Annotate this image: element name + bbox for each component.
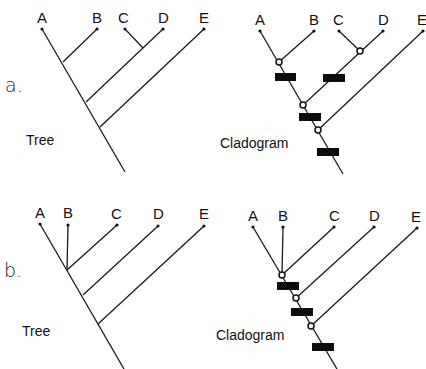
panel-label-a: a. xyxy=(5,74,23,96)
clade-node xyxy=(315,127,321,133)
synapomorphy-bar xyxy=(323,74,345,82)
clado-branch-d xyxy=(303,31,383,105)
taxon-label-e: E xyxy=(417,11,426,28)
taxon-label-a: A xyxy=(37,9,47,26)
tip-dot xyxy=(156,224,159,227)
tip-dot xyxy=(251,225,254,228)
cladogram-b: A B C D E Cladogram xyxy=(216,207,421,369)
synapomorphy-bar xyxy=(317,148,339,156)
tip-dot xyxy=(202,27,205,30)
cladogram-a: A B C D E Cladogram xyxy=(220,11,426,174)
clado-branch-e xyxy=(311,228,417,326)
taxon-label-d: D xyxy=(378,11,389,28)
tree-a: A B C D E Tree xyxy=(26,9,209,172)
clado-branch-b xyxy=(282,227,283,275)
tree-branch-b xyxy=(63,29,97,62)
tip-dot xyxy=(40,27,43,30)
taxon-label-c: C xyxy=(333,11,344,28)
cladogram-figure: a. A B C D E Tree xyxy=(0,0,426,369)
taxon-label-c: C xyxy=(329,207,340,224)
taxon-label-e: E xyxy=(199,9,209,26)
tree-branch-d xyxy=(83,226,158,295)
synapomorphy-bar xyxy=(299,113,321,121)
tree-caption: Tree xyxy=(22,323,50,339)
taxon-label-c: C xyxy=(118,9,129,26)
clade-node xyxy=(357,48,363,54)
tree-branch-d xyxy=(86,29,163,102)
tip-dot xyxy=(372,225,375,228)
synapomorphy-bar xyxy=(312,343,334,351)
tip-dot xyxy=(332,225,335,228)
clade-node xyxy=(276,59,282,65)
clade-node xyxy=(293,295,299,301)
tip-dot xyxy=(66,223,69,226)
taxon-label-c: C xyxy=(111,205,122,222)
taxon-label-a: A xyxy=(255,11,265,28)
tip-dot xyxy=(95,27,98,30)
panel-a: a. A B C D E Tree xyxy=(5,9,426,174)
clado-branch-b xyxy=(279,31,314,62)
clade-node xyxy=(279,272,285,278)
tree-caption: Tree xyxy=(26,132,54,148)
tip-dot xyxy=(337,29,340,32)
tree-branch-c xyxy=(67,225,117,270)
taxon-label-b: B xyxy=(63,204,73,221)
taxon-label-d: D xyxy=(153,205,164,222)
tip-dot xyxy=(38,222,41,225)
tip-dot xyxy=(202,224,205,227)
clado-branch-d xyxy=(296,227,374,298)
tree-branch-main xyxy=(42,29,125,172)
taxon-label-b: B xyxy=(278,207,288,224)
tree-branch-c xyxy=(125,29,143,48)
tree-branch-b xyxy=(67,225,68,270)
clade-node xyxy=(308,323,314,329)
tip-dot xyxy=(123,27,126,30)
taxon-label-a: A xyxy=(248,207,258,224)
tip-dot xyxy=(312,29,315,32)
taxon-label-d: D xyxy=(369,207,380,224)
synapomorphy-bar xyxy=(277,282,299,290)
taxon-label-e: E xyxy=(199,205,209,222)
tree-b: A B C D E Tree xyxy=(22,204,209,369)
tip-dot xyxy=(115,223,118,226)
tip-dot xyxy=(381,29,384,32)
tree-branch-e xyxy=(98,226,204,324)
cladogram-caption: Cladogram xyxy=(220,135,288,151)
taxon-label-b: B xyxy=(309,11,319,28)
tip-dot xyxy=(421,29,424,32)
clade-node xyxy=(300,102,306,108)
synapomorphy-bar xyxy=(291,308,313,316)
cladogram-caption: Cladogram xyxy=(216,327,284,343)
tip-dot xyxy=(281,225,284,228)
panel-label-b: b. xyxy=(4,259,22,281)
taxon-label-e: E xyxy=(411,208,421,225)
panel-b: b. A B C D E Tree xyxy=(4,204,421,369)
tree-branch-main xyxy=(40,224,124,369)
taxon-label-b: B xyxy=(92,9,102,26)
synapomorphy-bar xyxy=(275,73,296,81)
tip-dot xyxy=(258,29,261,32)
clado-branch-c xyxy=(282,227,334,275)
taxon-label-d: D xyxy=(158,9,169,26)
tip-dot xyxy=(415,226,418,229)
tip-dot xyxy=(161,27,164,30)
tree-branch-e xyxy=(100,29,204,127)
clado-branch-c xyxy=(339,31,360,51)
taxon-label-a: A xyxy=(35,204,45,221)
